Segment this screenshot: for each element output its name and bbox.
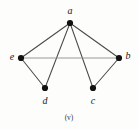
graph-vertex-c xyxy=(90,85,96,91)
graph-figure: aebdc (v) xyxy=(0,0,138,130)
graph-vertex-label-d: d xyxy=(43,95,49,106)
graph-vertex-label-a: a xyxy=(68,5,73,16)
graph-edge-a-c xyxy=(70,23,93,88)
graph-edge-a-d xyxy=(45,23,70,88)
graph-edge-a-e xyxy=(21,23,70,58)
node-layer xyxy=(18,20,122,91)
graph-svg: aebdc (v) xyxy=(0,0,138,130)
edge-layer xyxy=(21,23,119,88)
graph-vertex-e xyxy=(18,55,24,61)
graph-edge-e-d xyxy=(21,58,45,88)
graph-vertex-d xyxy=(42,85,48,91)
graph-vertex-b xyxy=(116,55,122,61)
graph-vertex-label-b: b xyxy=(126,50,131,61)
graph-edge-a-b xyxy=(70,23,119,58)
graph-vertex-a xyxy=(67,20,73,26)
graph-vertex-label-e: e xyxy=(10,51,15,62)
graph-edge-c-b xyxy=(93,58,119,88)
figure-caption: (v) xyxy=(65,113,74,122)
graph-vertex-label-c: c xyxy=(91,95,96,106)
